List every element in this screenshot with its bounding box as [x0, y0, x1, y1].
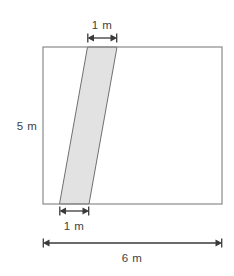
bottom-strip-width-dimension: 1 m [60, 207, 90, 233]
rectangle-width-label: 6 m [122, 252, 142, 264]
rectangle-width-dimension: 6 m [43, 239, 222, 265]
top-width-dimension: 1 m [88, 19, 118, 43]
figure-canvas: 1 m 1 m 5 m 6 m [0, 0, 234, 276]
rectangle-width-arrow-right-icon [216, 240, 223, 247]
top-width-arrow-left-icon [88, 35, 95, 42]
rectangle-height-dimension: 5 m [17, 120, 37, 132]
shaded-parallelogram [60, 47, 118, 204]
top-width-arrow-right-icon [111, 35, 118, 42]
bottom-strip-width-label: 1 m [64, 220, 84, 232]
geometry-figure: 1 m 1 m 5 m 6 m [0, 0, 234, 276]
top-width-label: 1 m [92, 19, 112, 31]
bottom-strip-arrow-right-icon [83, 208, 90, 215]
rectangle-height-label: 5 m [17, 120, 37, 132]
rectangle-width-arrow-left-icon [43, 240, 50, 247]
bottom-strip-arrow-left-icon [60, 208, 67, 215]
